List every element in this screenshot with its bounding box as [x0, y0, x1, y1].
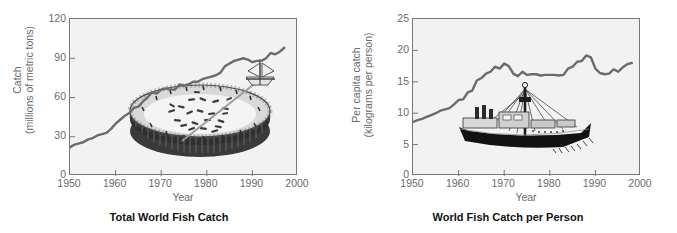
x-tick-left-1950: 1950: [49, 178, 89, 188]
x-tick-left-1960: 1960: [95, 178, 135, 188]
x-tick-right-2000: 2000: [620, 178, 660, 188]
y-axis-label-left-line2: (millions of metric tons): [23, 26, 35, 134]
y-tick-left-60: 60: [24, 91, 66, 101]
y-axis-label-left: Catch (millions of metric tons): [12, 10, 35, 150]
x-axis-label-left: Year: [123, 191, 243, 203]
plot-area-right: [412, 18, 640, 175]
chart-title-left: Total World Fish Catch: [0, 211, 338, 223]
x-tick-left-1990: 1990: [231, 178, 271, 188]
x-tick-right-1970: 1970: [483, 178, 523, 188]
y-axis-label-left-line1: Catch: [11, 66, 23, 93]
x-tick-right-1950: 1950: [392, 178, 432, 188]
y-tick-right-5: 5: [367, 139, 409, 149]
y-axis-label-right-line1: Per capita catch: [350, 47, 362, 122]
y-tick-left-30: 30: [24, 130, 66, 140]
x-tick-left-1970: 1970: [140, 178, 180, 188]
fishing-trawler-illustration: [459, 82, 593, 153]
figure-root: Catch (millions of metric tons) 120 90 6…: [0, 0, 677, 233]
chart-panel-world-fish-catch-per-person: Per capita catch (kilograms per person) …: [339, 0, 677, 233]
x-tick-left-2000: 2000: [277, 178, 317, 188]
x-tick-right-1990: 1990: [574, 178, 614, 188]
x-tick-marks-right: [459, 170, 596, 176]
bowl-of-fish-illustration: [130, 59, 275, 157]
y-tick-right-20: 20: [367, 44, 409, 54]
y-tick-left-120: 120: [24, 13, 66, 23]
x-tick-right-1980: 1980: [529, 178, 569, 188]
y-tick-left-90: 90: [24, 52, 66, 62]
x-tick-right-1960: 1960: [438, 178, 478, 188]
plot-area-left: [69, 18, 297, 175]
x-tick-marks-left: [116, 170, 253, 176]
x-axis-label-right: Year: [466, 191, 586, 203]
y-tick-right-15: 15: [367, 76, 409, 86]
plot-svg-right: [413, 19, 641, 176]
chart-title-right: World Fish Catch per Person: [339, 211, 677, 223]
x-tick-left-1980: 1980: [186, 178, 226, 188]
y-tick-marks-left: [70, 58, 75, 137]
y-tick-marks-right: [413, 50, 418, 144]
y-tick-right-10: 10: [367, 107, 409, 117]
y-tick-right-25: 25: [367, 13, 409, 23]
small-boat-icon: [246, 59, 275, 85]
chart-panel-total-world-fish-catch: Catch (millions of metric tons) 120 90 6…: [0, 0, 338, 233]
plot-svg-left: [70, 19, 298, 176]
